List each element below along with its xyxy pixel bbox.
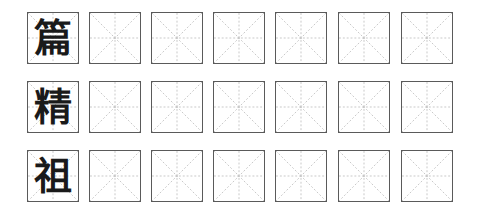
blank-practice-cell[interactable]: [338, 150, 390, 202]
blank-practice-cell[interactable]: [401, 12, 453, 64]
mi-grid-guide-icon: [402, 82, 452, 132]
mi-grid-guide-icon: [402, 151, 452, 201]
model-character: 篇: [28, 13, 78, 63]
mi-grid-guide-icon: [402, 13, 452, 63]
mi-grid-guide-icon: [276, 82, 326, 132]
blank-practice-cell[interactable]: [275, 150, 327, 202]
model-character: 祖: [28, 151, 78, 201]
blank-practice-cell[interactable]: [213, 81, 265, 133]
blank-practice-cell[interactable]: [401, 81, 453, 133]
model-character-cell: 篇: [27, 12, 79, 64]
model-character-cell: 精: [27, 81, 79, 133]
mi-grid-guide-icon: [152, 82, 202, 132]
mi-grid-guide-icon: [339, 82, 389, 132]
blank-practice-cell[interactable]: [151, 12, 203, 64]
blank-practice-cell[interactable]: [89, 12, 141, 64]
mi-grid-guide-icon: [339, 151, 389, 201]
mi-grid-guide-icon: [276, 13, 326, 63]
mi-grid-guide-icon: [214, 13, 264, 63]
model-character: 精: [28, 82, 78, 132]
blank-practice-cell[interactable]: [338, 12, 390, 64]
blank-practice-cell[interactable]: [275, 81, 327, 133]
blank-practice-cell[interactable]: [213, 150, 265, 202]
blank-practice-cell[interactable]: [338, 81, 390, 133]
blank-practice-cell[interactable]: [151, 150, 203, 202]
blank-practice-cell[interactable]: [89, 150, 141, 202]
mi-grid-guide-icon: [90, 151, 140, 201]
mi-grid-guide-icon: [276, 151, 326, 201]
mi-grid-guide-icon: [152, 151, 202, 201]
mi-grid-guide-icon: [339, 13, 389, 63]
mi-grid-guide-icon: [214, 151, 264, 201]
blank-practice-cell[interactable]: [275, 12, 327, 64]
blank-practice-cell[interactable]: [401, 150, 453, 202]
mi-grid-guide-icon: [152, 13, 202, 63]
blank-practice-cell[interactable]: [151, 81, 203, 133]
mi-grid-guide-icon: [90, 13, 140, 63]
model-character-cell: 祖: [27, 150, 79, 202]
blank-practice-cell[interactable]: [89, 81, 141, 133]
blank-practice-cell[interactable]: [213, 12, 265, 64]
mi-grid-guide-icon: [214, 82, 264, 132]
mi-grid-guide-icon: [90, 82, 140, 132]
